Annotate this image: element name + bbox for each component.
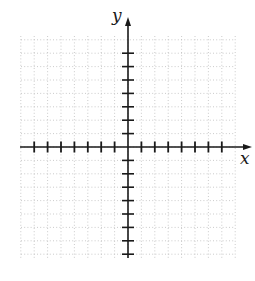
- axes: [20, 17, 252, 258]
- y-axis-arrow-icon: [125, 17, 131, 26]
- x-axis-label: x: [240, 150, 250, 167]
- y-axis-label: y: [112, 7, 122, 24]
- coordinate-plane: y x: [0, 0, 255, 281]
- coordinate-grid-svg: [0, 0, 255, 281]
